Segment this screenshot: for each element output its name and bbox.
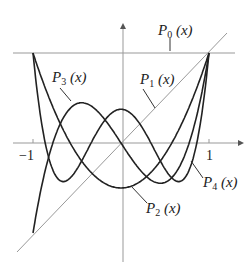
pointer-p2 <box>131 186 147 203</box>
tick-label-neg1: −1 <box>19 148 34 163</box>
chart-svg: −1 1 P0 (x) P1 (x) P3 (x) P2 (x) P4 (x) <box>0 0 248 269</box>
legendre-polynomials-chart: −1 1 P0 (x) P1 (x) P3 (x) P2 (x) P4 (x) <box>0 0 248 269</box>
pointer-p3 <box>60 88 71 101</box>
label-p3: P3 (x) <box>51 69 87 87</box>
pointer-p4 <box>191 161 203 178</box>
label-p0: P0 (x) <box>157 22 193 40</box>
label-p4: P4 (x) <box>202 174 238 192</box>
tick-label-pos1: 1 <box>206 148 213 163</box>
x-axis-arrow-icon <box>238 140 244 146</box>
label-p1: P1 (x) <box>139 71 175 89</box>
y-axis-arrow-icon <box>120 23 126 29</box>
label-p2: P2 (x) <box>145 200 181 218</box>
pointer-p1 <box>143 89 155 108</box>
